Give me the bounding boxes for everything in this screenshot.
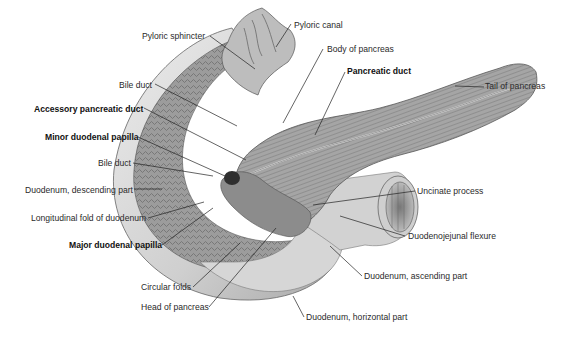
duodenojejunal-opening [378, 176, 418, 238]
label-minor-duodenal-papilla: Minor duodenal papilla [45, 132, 139, 142]
label-circular-folds: Circular folds [141, 282, 191, 292]
label-duodenojejunal-flexure: Duodenojejunal flexure [408, 231, 496, 241]
label-duodenum-ascending-part: Duodenum, ascending part [364, 271, 468, 281]
label-pyloric-canal: Pyloric canal [294, 20, 343, 30]
label-duodenum-horizontal-part: Duodenum, horizontal part [306, 312, 408, 322]
label-pyloric-sphincter: Pyloric sphincter [142, 31, 205, 41]
label-uncinate-process: Uncinate process [417, 186, 483, 196]
label-pancreatic-duct: Pancreatic duct [347, 66, 411, 76]
label-duodenum-descending-part: Duodenum, descending part [25, 185, 134, 195]
anatomy-illustration: Pyloric sphincter Pyloric canal Body of … [0, 0, 566, 337]
label-accessory-pancreatic-duct: Accessory pancreatic duct [34, 104, 144, 114]
label-major-duodenal-papilla: Major duodenal papilla [69, 240, 162, 250]
label-bile-duct-upper: Bile duct [119, 80, 153, 90]
label-tail-of-pancreas: Tail of pancreas [485, 81, 545, 91]
label-bile-duct-lower: Bile duct [98, 158, 132, 168]
label-head-of-pancreas: Head of pancreas [141, 302, 209, 312]
label-longitudinal-fold-of-duodenum: Longitudinal fold of duodenum [31, 213, 146, 223]
pylorus [222, 8, 295, 95]
label-body-of-pancreas: Body of pancreas [327, 44, 394, 54]
